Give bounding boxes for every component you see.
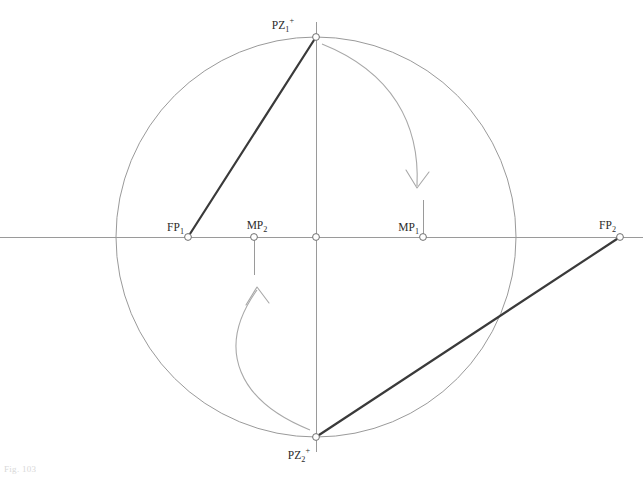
label-pz2-base: PZ <box>288 449 301 461</box>
label-fp1: FP1 <box>167 221 184 236</box>
label-mp1: MP1 <box>398 221 419 236</box>
label-fp2-base: FP <box>599 219 612 231</box>
arc-path-lower <box>236 290 310 430</box>
figure-root: PZ1+ PZ2+ FP1 MP2 MP1 FP2 Fig. 103 <box>0 0 643 478</box>
label-pz2-sub: 2 <box>301 455 305 464</box>
arc-path-upper <box>322 44 417 186</box>
label-pz2-sup: + <box>305 446 310 455</box>
point-marker-origin <box>313 234 320 241</box>
point-marker-fp2 <box>617 234 624 241</box>
label-fp2-sub: 2 <box>612 225 616 234</box>
label-fp1-base: FP <box>167 221 180 233</box>
label-fp2: FP2 <box>599 219 616 234</box>
label-pz1-sup: + <box>289 16 294 25</box>
axes-group <box>0 22 643 452</box>
chord-pz1-fp1 <box>188 37 316 237</box>
label-pz1: PZ1+ <box>272 16 295 34</box>
label-mp2-base: MP <box>247 219 264 231</box>
point-marker-pz1 <box>313 34 320 41</box>
geometry-diagram: PZ1+ PZ2+ FP1 MP2 MP1 FP2 <box>0 0 643 478</box>
point-marker-mp2 <box>251 234 258 241</box>
figure-caption: Fig. 103 <box>4 464 36 476</box>
label-mp1-base: MP <box>398 221 415 233</box>
label-pz2: PZ2+ <box>288 446 311 464</box>
arc-arrow-lower-left <box>236 287 310 430</box>
label-pz1-base: PZ <box>272 19 285 31</box>
label-mp1-sub: 1 <box>415 227 419 236</box>
label-mp2: MP2 <box>247 219 268 234</box>
point-marker-fp1 <box>185 234 192 241</box>
label-fp1-sub: 1 <box>180 227 184 236</box>
label-pz1-sub: 1 <box>285 25 289 34</box>
point-marker-mp1 <box>420 234 427 241</box>
label-mp2-sub: 2 <box>263 225 267 234</box>
chord-pz2-fp2 <box>316 237 620 437</box>
arc-arrow-upper-right <box>322 44 429 188</box>
point-marker-pz2 <box>313 434 320 441</box>
point-labels-group: PZ1+ PZ2+ FP1 MP2 MP1 FP2 <box>167 16 616 464</box>
